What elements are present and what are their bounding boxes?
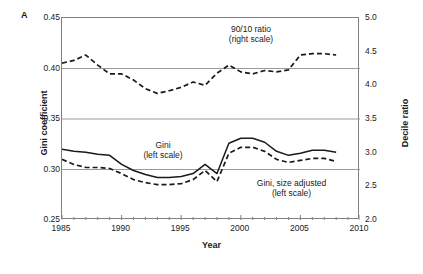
y-axis-left-tick-label: 0.35 [26,113,60,123]
x-axis-tick-label: 1985 [41,223,81,233]
y-axis-left-tick-label: 0.30 [26,164,60,174]
y-axis-right-tick-label: 4.0 [365,79,395,89]
y-axis-right-tick-label: 5.0 [365,12,395,22]
y-axis-left-tick-label: 0.40 [26,63,60,73]
y-axis-right-tick-label: 2.5 [365,180,395,190]
x-axis-tick-label: 1990 [101,223,141,233]
y-axis-right-tick-label: 4.5 [365,46,395,56]
gridlines [62,69,360,170]
x-axis-tick-label: 2005 [279,223,319,233]
x-minor-ticks [62,215,360,220]
series-line-0 [62,54,336,94]
x-axis-title: Year [0,240,423,250]
y-axis-right-tick-label: 3.0 [365,147,395,157]
chart-figure: A Gini coefficient Decile ratio Year 0.2… [0,0,423,274]
y-axis-right-title: Decile ratio [400,48,410,198]
y-axis-left-tick-label: 0.45 [26,12,60,22]
y-axis-right-tick-label: 3.5 [365,113,395,123]
gini-annotation: Gini (left scale) [123,140,203,161]
gini-adjusted-annotation: Gini, size adjusted (left scale) [224,178,359,199]
x-axis-tick-label: 2000 [220,223,260,233]
x-axis-tick-label: 2010 [339,223,379,233]
x-axis-tick-label: 1995 [160,223,200,233]
ratio-annotation: 90/10 ratio (right scale) [196,24,306,45]
